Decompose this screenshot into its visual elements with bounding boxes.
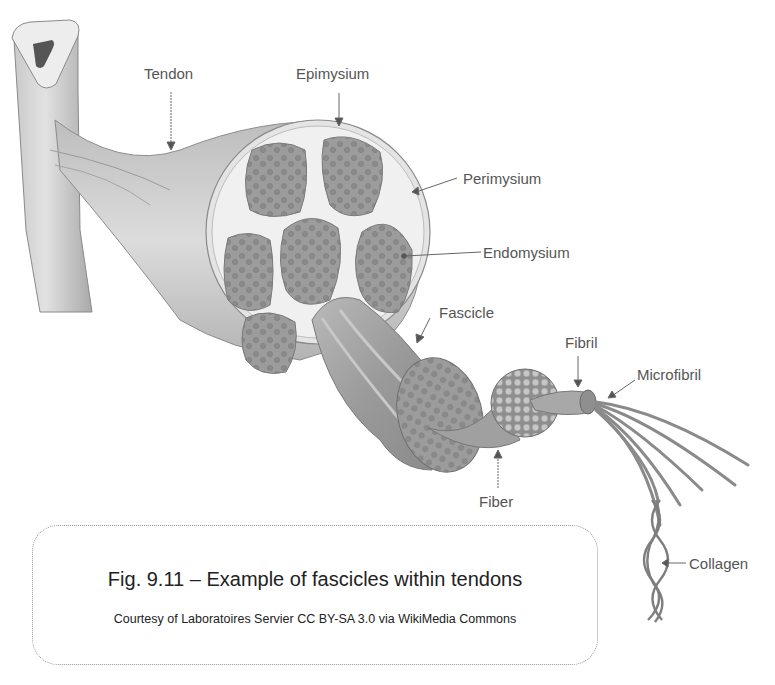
figure-canvas: Tendon Epimysium Perimysium Endomysium F… (0, 0, 775, 685)
label-perimysium: Perimysium (463, 171, 541, 186)
label-tendon: Tendon (144, 66, 193, 81)
label-collagen: Collagen (689, 556, 748, 571)
label-fibril: Fibril (565, 335, 598, 350)
caption-title: Fig. 9.11 – Example of fascicles within … (33, 568, 597, 591)
caption-box: Fig. 9.11 – Example of fascicles within … (32, 525, 598, 665)
label-fascicle: Fascicle (439, 305, 494, 320)
caption-credit: Courtesy of Laboratoires Servier CC BY-S… (33, 612, 597, 626)
fascicle-bundle (312, 298, 496, 482)
label-endomysium: Endomysium (483, 245, 570, 260)
microfibril-strands (596, 402, 748, 525)
label-epimysium: Epimysium (296, 66, 369, 81)
label-microfibril: Microfibril (637, 367, 701, 382)
label-fiber: Fiber (479, 494, 513, 509)
